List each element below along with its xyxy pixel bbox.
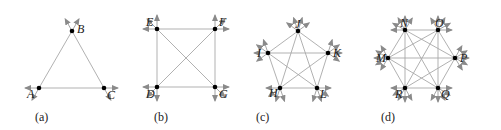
- vertex-label: D: [145, 87, 155, 101]
- vertex-D: [155, 85, 160, 90]
- vertex-E: [155, 27, 160, 32]
- edges: [39, 31, 104, 88]
- edge-AB: [39, 31, 72, 88]
- graph-diagram-canvas: ABC(a) EFDG(b) JIKHL(c) NOMPRQ(d): [0, 0, 501, 130]
- vertex-B: [70, 29, 75, 34]
- panel-b-square-graph: EFDG(b): [143, 15, 229, 124]
- edge-JK: [298, 31, 328, 53]
- vertex-K: [326, 51, 331, 56]
- edge-JH: [280, 31, 298, 88]
- edge-IL: [268, 53, 317, 88]
- vertex-G: [213, 85, 218, 90]
- edge-MR: [388, 58, 405, 88]
- vertex-label: M: [375, 51, 387, 65]
- vertex-Q: [436, 86, 441, 91]
- vertex-label: A: [26, 87, 35, 101]
- vertex-H: [278, 86, 283, 91]
- vertex-label: J: [295, 17, 301, 31]
- panel-caption: (a): [35, 110, 48, 124]
- panel-d-hexagon-graph: NOMPRQ(d): [374, 16, 469, 124]
- edges: [388, 30, 455, 88]
- vertex-label: Q: [441, 87, 450, 101]
- vertex-F: [213, 27, 218, 32]
- vertex-label: C: [107, 88, 116, 102]
- edge-NM: [388, 30, 405, 58]
- edge-JI: [268, 31, 298, 53]
- vertex-label: O: [435, 16, 444, 30]
- panel-caption: (c): [256, 110, 269, 124]
- edge-OP: [438, 30, 455, 58]
- edge-BC: [72, 31, 104, 88]
- edge-PQ: [438, 58, 455, 88]
- panel-caption: (b): [154, 110, 168, 124]
- vertex-P: [453, 56, 458, 61]
- edges: [268, 31, 328, 88]
- vertex-label: R: [394, 87, 403, 101]
- panel-caption: (d): [381, 110, 395, 124]
- vertex-L: [315, 86, 320, 91]
- vertex-label: L: [319, 87, 327, 101]
- edge-JL: [298, 31, 317, 88]
- vertex-R: [403, 86, 408, 91]
- panel-a-triangle-graph: ABC(a): [25, 19, 118, 124]
- vertex-I: [266, 51, 271, 56]
- edge-KL: [317, 53, 328, 88]
- vertex-label: E: [145, 15, 154, 29]
- vertex-label: B: [77, 22, 85, 36]
- vertex-label: P: [459, 51, 468, 65]
- vertex-label: H: [268, 86, 279, 100]
- edges: [157, 29, 215, 87]
- vertex-label: G: [219, 87, 228, 101]
- vertex-label: K: [332, 46, 342, 60]
- edge-KH: [280, 53, 328, 88]
- vertex-M: [386, 56, 391, 61]
- panel-c-pentagon-graph: JIKHL(c): [254, 17, 342, 124]
- vertex-label: N: [399, 16, 409, 30]
- vertex-C: [102, 86, 107, 91]
- vertex-label: F: [218, 15, 227, 29]
- edge-IH: [268, 53, 280, 88]
- vertex-A: [37, 86, 42, 91]
